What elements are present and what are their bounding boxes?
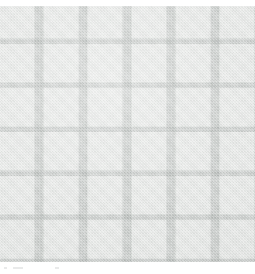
faint-caption-mark (4, 267, 7, 269)
fabric-swatch (0, 0, 255, 262)
bottom-white-strip (0, 262, 255, 274)
image-canvas (0, 0, 255, 274)
cloth-grain-texture (0, 0, 255, 262)
faint-caption-mark (55, 267, 59, 269)
top-white-margin (0, 0, 255, 6)
faint-caption-mark (13, 267, 23, 269)
